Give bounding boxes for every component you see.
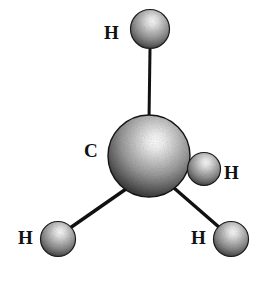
molecule-figure: H C H H H [0,0,268,288]
atom-c-center [108,115,190,197]
atom-label-h-top: H [104,23,119,42]
atom-h-top [131,10,170,49]
bond-c-h-top [149,49,150,120]
atom-label-h-right: H [224,163,239,182]
molecule-canvas [0,0,268,288]
atom-h-bottom-left [41,222,76,257]
atom-label-h-bottom-left: H [18,228,33,247]
bond-c-h-bottom-left [70,189,126,228]
atom-label-h-bottom-right: H [191,228,206,247]
atom-label-c-center: C [84,141,98,160]
atom-h-right [188,153,221,186]
bond-c-h-bottom-right [174,188,220,228]
atom-h-bottom-right [214,222,249,257]
